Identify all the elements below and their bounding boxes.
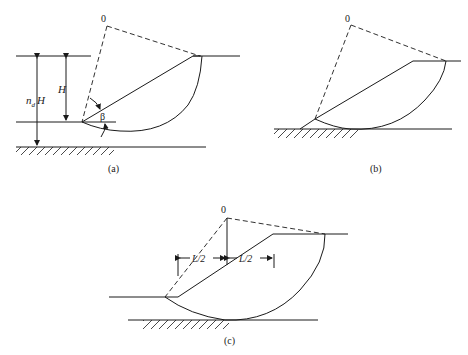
half-length-label-left: L/2	[191, 253, 205, 264]
radius-line	[82, 26, 107, 122]
radius-line	[107, 26, 200, 56]
firm-base-hatch	[16, 147, 114, 155]
caption-a: (a)	[108, 163, 119, 175]
beta-label: β	[100, 111, 105, 122]
panel-b: 0 (b)	[274, 13, 461, 175]
caption-b: (b)	[370, 163, 382, 175]
depth-label: ndH	[26, 94, 46, 109]
panel-a: 0 ndH H β (a)	[16, 13, 240, 175]
height-label: H	[57, 83, 67, 95]
slip-circle	[165, 234, 325, 320]
radius-line	[351, 25, 446, 61]
radius-line	[315, 25, 351, 119]
slope-failure-diagram: 0 ndH H β (a) 0 (b)	[0, 0, 468, 355]
caption-c: (c)	[224, 335, 235, 347]
panel-c: 0 L/2 L/2 (c)	[109, 204, 348, 347]
center-label: 0	[101, 13, 106, 24]
slope-face	[178, 234, 273, 297]
slope-face	[82, 56, 193, 122]
center-label: 0	[221, 204, 226, 215]
firm-base-hatch	[274, 129, 358, 138]
center-label: 0	[345, 13, 350, 24]
angle-arc	[90, 98, 100, 109]
angle-arc	[101, 124, 105, 137]
radius-line	[227, 218, 325, 234]
firm-base-hatch	[143, 320, 229, 329]
slope-face	[315, 61, 413, 119]
half-length-label-right: L/2	[238, 253, 252, 264]
slip-circle	[315, 61, 446, 129]
